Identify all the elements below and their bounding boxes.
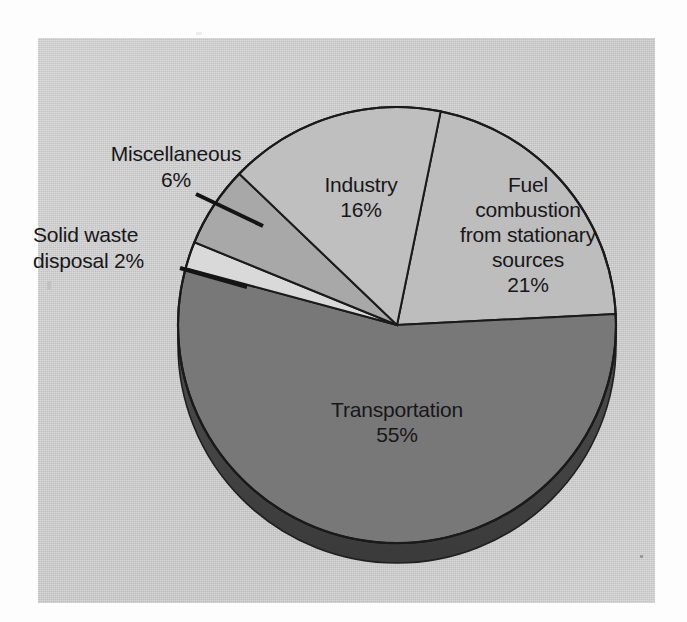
callout-label-solid-waste-disposal: Solid waste disposal 2% [33, 222, 248, 274]
slice-label-industry: Industry 16% [286, 172, 436, 222]
slice-label-transportation: Transportation 55% [282, 397, 512, 447]
pie-chart-graphic [0, 0, 687, 622]
slice-label-fuel-combustion: Fuel combustion from stationary sources … [437, 172, 619, 297]
figure-root: Transportation 55% Industry 16% Fuel com… [0, 0, 687, 622]
callout-label-miscellaneous: Miscellaneous 6% [76, 141, 276, 193]
